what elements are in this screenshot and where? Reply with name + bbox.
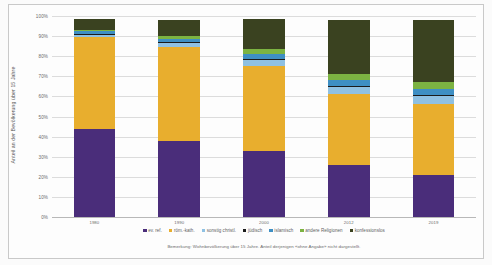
y-axis-title-text: Anteil an der Bevölkerung über 15 Jahre (10, 40, 16, 190)
bar-segment[interactable] (243, 59, 285, 66)
x-axis-tick-label: 2019 (413, 220, 455, 225)
x-axis-tick-label: 2012 (328, 220, 370, 225)
x-axis-tick-label: 1980 (74, 220, 116, 225)
bar-segment[interactable] (158, 47, 200, 140)
legend-item[interactable]: jüdisch (243, 228, 262, 233)
legend-swatch-icon (169, 229, 172, 232)
bar-segment[interactable] (74, 34, 116, 35)
y-axis-tick-label: 80% (39, 54, 49, 59)
y-axis-tick-label: 70% (39, 74, 49, 79)
y-axis-tick-label: 30% (39, 154, 49, 159)
bar-segment[interactable] (243, 151, 285, 217)
bar-segment[interactable] (158, 36, 200, 38)
y-axis-tick-label: 20% (39, 174, 49, 179)
bar-segment[interactable] (243, 59, 285, 60)
bar-segment[interactable] (158, 141, 200, 217)
legend-item[interactable]: ev. ref. (143, 228, 162, 233)
bar-segment[interactable] (328, 94, 370, 164)
x-axis-tick-label: 1990 (158, 220, 200, 225)
bar-segment[interactable] (413, 95, 455, 104)
bar-segment[interactable] (413, 104, 455, 174)
stacked-bar[interactable] (74, 16, 116, 217)
bar-segment[interactable] (413, 82, 455, 88)
stacked-bar[interactable] (328, 16, 370, 217)
bar-segment[interactable] (328, 74, 370, 79)
bar-segment[interactable] (243, 49, 285, 53)
chart-legend: ev. ref.röm.-kath.sonstig christl.jüdisc… (52, 228, 476, 233)
bar-group[interactable]: 2019 (413, 16, 455, 217)
stacked-bar[interactable] (158, 16, 200, 217)
y-axis-tick-label: 10% (39, 194, 49, 199)
bar-segment[interactable] (74, 30, 116, 31)
stacked-bar[interactable] (243, 16, 285, 217)
bar-segment[interactable] (243, 66, 285, 150)
chart-footnote: Bemerkung: Wohnbevölkerung über 15 Jahre… (52, 244, 476, 249)
y-axis-tick-label: 50% (39, 114, 49, 119)
bar-segment[interactable] (74, 129, 116, 217)
legend-swatch-icon (143, 229, 146, 232)
stacked-bar[interactable] (413, 16, 455, 217)
legend-swatch-icon (350, 229, 353, 232)
y-axis-tick-label: 0% (41, 215, 48, 220)
y-axis-tick-label: 40% (39, 134, 49, 139)
bar-segment[interactable] (328, 86, 370, 94)
bar-segment[interactable] (74, 34, 116, 37)
bar-segment[interactable] (328, 165, 370, 217)
bar-group[interactable]: 1980 (74, 16, 116, 217)
legend-item[interactable]: islamisch (269, 228, 293, 233)
chart-page: Anteil an der Bevölkerung über 15 Jahre … (0, 0, 492, 265)
legend-swatch-icon (300, 229, 303, 232)
bar-segment[interactable] (243, 54, 285, 59)
bar-segment[interactable] (74, 19, 116, 30)
bar-group[interactable]: 2000 (243, 16, 285, 217)
bar-segment[interactable] (158, 42, 200, 47)
bar-segment[interactable] (243, 19, 285, 49)
bar-segment[interactable] (413, 175, 455, 217)
bar-segment[interactable] (328, 20, 370, 74)
bar-segment[interactable] (74, 37, 116, 128)
x-axis-tick-label: 2000 (243, 220, 285, 225)
legend-item[interactable]: konfessionslos (350, 228, 385, 233)
bar-group[interactable]: 1990 (158, 16, 200, 217)
legend-label: ev. ref. (148, 228, 162, 233)
bar-segment[interactable] (158, 39, 200, 42)
legend-label: islamisch (274, 228, 293, 233)
bar-segment[interactable] (413, 95, 455, 96)
y-axis-tick-label: 60% (39, 94, 49, 99)
legend-label: konfessionslos (355, 228, 385, 233)
bar-segment[interactable] (158, 42, 200, 43)
y-axis-title: Anteil an der Bevölkerung über 15 Jahre (10, 0, 16, 40)
legend-swatch-icon (202, 229, 205, 232)
legend-item[interactable]: röm.-kath. (169, 228, 195, 233)
legend-item[interactable]: sonstig christl. (202, 228, 236, 233)
bar-series-container: 19801990200020122019 (52, 16, 476, 217)
y-axis-tick-label: 90% (39, 34, 49, 39)
bar-group[interactable]: 2012 (328, 16, 370, 217)
legend-label: andere Religionen (305, 228, 342, 233)
legend-item[interactable]: andere Religionen (300, 228, 342, 233)
legend-label: sonstig christl. (207, 228, 236, 233)
bar-segment[interactable] (158, 20, 200, 36)
legend-swatch-icon (269, 229, 272, 232)
gridline (52, 217, 476, 218)
bar-segment[interactable] (328, 86, 370, 87)
legend-label: jüdisch (248, 228, 262, 233)
bar-segment[interactable] (413, 20, 455, 82)
bar-segment[interactable] (328, 80, 370, 86)
bar-segment[interactable] (413, 89, 455, 95)
legend-swatch-icon (243, 229, 246, 232)
plot-area: 0%10%20%30%40%50%60%70%80%90%100% 198019… (52, 16, 476, 217)
bar-segment[interactable] (74, 31, 116, 33)
y-axis-tick-label: 100% (36, 14, 48, 19)
legend-label: röm.-kath. (174, 228, 195, 233)
